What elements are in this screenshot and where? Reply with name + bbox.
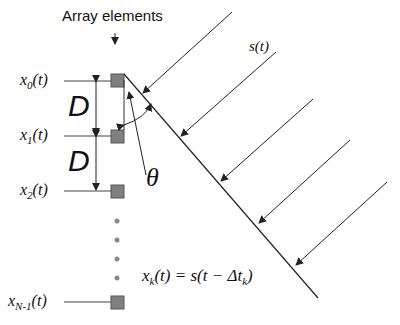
array-elements-label: Array elements (62, 7, 163, 24)
ellipsis-dots (115, 219, 120, 281)
theta-pointer (129, 92, 146, 175)
signal-label: s(t) (249, 38, 269, 55)
element-label-0: x0(t) (20, 71, 48, 91)
element-n-1 (111, 296, 124, 309)
element-label-2: x2(t) (20, 181, 48, 201)
spacing-label-2: D (68, 144, 90, 178)
element-2 (111, 185, 124, 198)
spacing-label-1: D (68, 89, 90, 123)
angle-arc (124, 104, 151, 125)
array-elements (111, 74, 124, 309)
delay-equation: xk(t) = s(t − Δtk) (142, 266, 253, 287)
element-label-n-1: xN-1(t) (8, 292, 47, 312)
element-label-1: x1(t) (20, 126, 48, 146)
element-1 (111, 130, 124, 143)
element-0 (111, 74, 124, 87)
theta-label: θ (146, 163, 159, 193)
array-diagram: Array elements x0(t) x1(t) x2(t) xN-1(t)… (0, 0, 400, 325)
